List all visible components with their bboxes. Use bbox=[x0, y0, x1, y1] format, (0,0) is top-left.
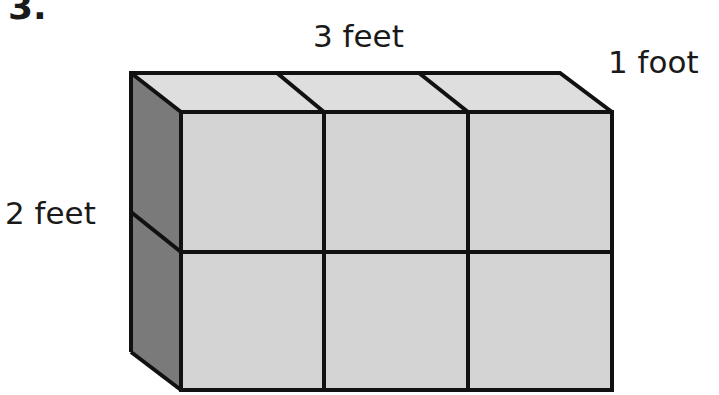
top-face bbox=[131, 73, 612, 112]
prism-figure bbox=[0, 0, 719, 395]
